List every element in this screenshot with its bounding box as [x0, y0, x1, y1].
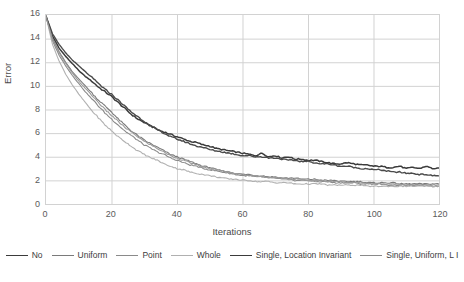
- legend-line-swatch: [116, 255, 138, 256]
- plot-area: [45, 14, 440, 205]
- legend-line-swatch: [6, 255, 28, 256]
- legend-item-label: Single, Location Invariant: [256, 250, 351, 260]
- x-tick-label: 80: [293, 209, 323, 219]
- legend-item-label: Point: [142, 250, 161, 260]
- legend-line-swatch: [360, 255, 382, 256]
- legend-item[interactable]: Single, Location Invariant: [230, 250, 351, 260]
- y-axis-title: Error: [2, 63, 13, 84]
- x-tick-label: 60: [228, 209, 258, 219]
- legend-item[interactable]: No: [6, 250, 43, 260]
- y-tick-label: 4: [18, 151, 40, 161]
- y-tick-label: 0: [18, 199, 40, 209]
- y-tick-label: 16: [18, 8, 40, 18]
- legend-item[interactable]: Whole: [171, 250, 221, 260]
- legend-item-label: Single, Uniform, L I: [386, 250, 458, 260]
- x-axis-title: Iterations: [0, 226, 464, 237]
- legend-item[interactable]: Point: [116, 250, 161, 260]
- chart-legend: NoUniformPointWholeSingle, Location Inva…: [0, 250, 464, 260]
- y-tick-label: 12: [18, 56, 40, 66]
- y-tick-label: 8: [18, 104, 40, 114]
- x-tick-label: 0: [30, 209, 60, 219]
- y-tick-label: 14: [18, 32, 40, 42]
- x-tick-label: 120: [425, 209, 455, 219]
- legend-line-swatch: [52, 255, 74, 256]
- legend-line-swatch: [230, 255, 252, 256]
- legend-item-label: Uniform: [78, 250, 108, 260]
- x-tick-label: 20: [96, 209, 126, 219]
- y-tick-label: 10: [18, 80, 40, 90]
- series-lines: [46, 15, 439, 204]
- chart-figure: Error 0246810121416 020406080100120 Iter…: [0, 0, 464, 282]
- y-tick-label: 2: [18, 175, 40, 185]
- legend-item[interactable]: Single, Uniform, L I: [360, 250, 458, 260]
- legend-item[interactable]: Uniform: [52, 250, 108, 260]
- legend-item-label: Whole: [197, 250, 221, 260]
- legend-item-label: No: [32, 250, 43, 260]
- legend-line-swatch: [171, 255, 193, 256]
- x-tick-label: 100: [359, 209, 389, 219]
- x-tick-label: 40: [162, 209, 192, 219]
- y-tick-label: 6: [18, 127, 40, 137]
